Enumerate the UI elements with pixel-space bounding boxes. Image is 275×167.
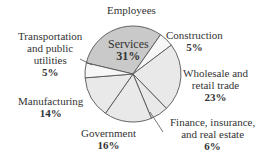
label-finance: Finance, insurance, and real estate 6% xyxy=(170,116,255,152)
label-government: Government 16% xyxy=(81,127,136,151)
label-services: Services 31% xyxy=(108,38,149,62)
label-manufacturing: Manufacturing 14% xyxy=(18,95,83,119)
label-wholesale: Wholesale and retail trade 23% xyxy=(183,67,248,103)
label-transportation: Transportation and public utilities 5% xyxy=(18,30,82,78)
pie-chart: Employees Services 31% Construction 5% W… xyxy=(0,0,275,167)
label-construction: Construction 5% xyxy=(166,29,223,53)
chart-title: Employees xyxy=(107,4,156,16)
